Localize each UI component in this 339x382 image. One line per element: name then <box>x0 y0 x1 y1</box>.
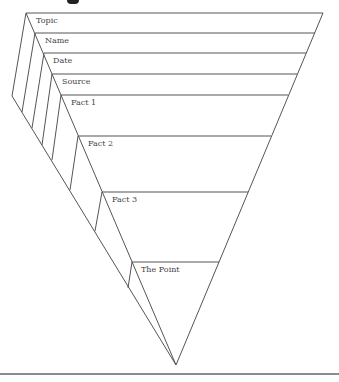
label-name: Name <box>45 36 69 46</box>
pyramid-side-edge <box>12 13 176 365</box>
fold-line <box>42 74 52 145</box>
label-the-point: The Point <box>141 265 180 275</box>
label-date: Date <box>53 56 72 66</box>
fold-line <box>95 192 102 231</box>
fold-line <box>32 53 44 128</box>
label-fact-2: Fact 2 <box>88 139 113 149</box>
label-fact-3: Fact 3 <box>112 195 137 205</box>
label-topic: Topic <box>36 16 58 26</box>
inverted-pyramid-diagram <box>0 0 339 382</box>
fold-line <box>52 95 61 160</box>
fold-line <box>22 33 35 112</box>
fold-line <box>128 262 132 288</box>
label-fact-1: Fact 1 <box>71 98 96 108</box>
fold-line <box>70 136 78 190</box>
label-source: Source <box>62 77 91 87</box>
